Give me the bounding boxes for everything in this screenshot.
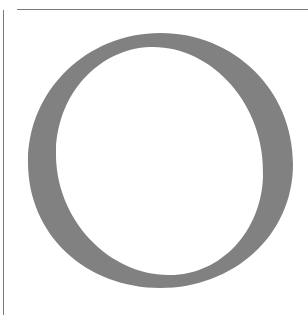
glyph-frame: O (0, 0, 308, 315)
letter-o-glyph (0, 0, 308, 315)
letter-o-shape (28, 33, 293, 288)
